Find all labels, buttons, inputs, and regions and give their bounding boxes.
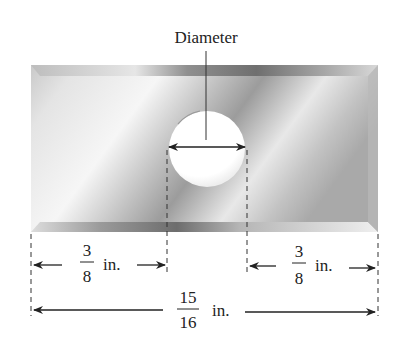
total-dim-denominator: 16 <box>180 313 197 332</box>
diagram-canvas: Diameter 3 8 in. 3 8 in. 15 16 in. <box>0 0 399 348</box>
left-dim-numerator: 3 <box>83 241 92 260</box>
left-margin-dimension: 3 8 in. <box>34 241 165 286</box>
total-dim-unit: in. <box>212 301 229 320</box>
diameter-label: Diameter <box>174 28 238 47</box>
right-dim-numerator: 3 <box>295 242 304 261</box>
right-dim-denominator: 8 <box>295 269 304 288</box>
right-dim-unit: in. <box>315 256 332 275</box>
right-margin-dimension: 3 8 in. <box>250 242 375 288</box>
left-dim-denominator: 8 <box>83 267 92 286</box>
total-dim-numerator: 15 <box>180 288 197 307</box>
total-width-dimension: 15 16 in. <box>34 288 375 332</box>
left-dim-unit: in. <box>103 255 120 274</box>
plate-right-bevel <box>368 65 378 232</box>
plate-top-bevel <box>31 65 378 76</box>
plate-bottom-bevel <box>31 222 378 232</box>
circular-hole <box>169 111 245 187</box>
